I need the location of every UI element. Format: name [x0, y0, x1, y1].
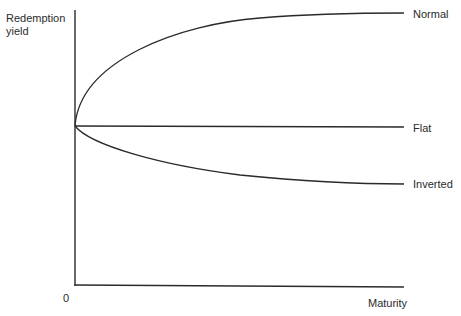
normal-curve-label: Normal: [413, 8, 448, 21]
origin-label: 0: [63, 292, 69, 305]
yield-curve-diagram: [0, 0, 461, 316]
normal-curve: [75, 13, 404, 126]
inverted-curve-label: Inverted: [413, 178, 453, 191]
y-axis-label-line2: yield: [6, 25, 29, 38]
flat-curve-label: Flat: [413, 122, 431, 135]
x-axis-label: Maturity: [368, 297, 407, 310]
y-axis-label-line1: Redemption: [6, 12, 65, 25]
x-axis: [74, 285, 404, 287]
inverted-curve: [75, 126, 404, 184]
flat-curve: [75, 126, 404, 127]
